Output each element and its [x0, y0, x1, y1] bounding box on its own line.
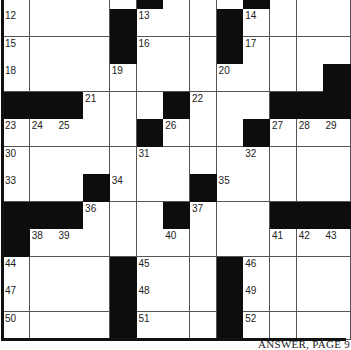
- grid-cell[interactable]: [56, 312, 83, 340]
- grid-cell[interactable]: [243, 92, 270, 120]
- grid-cell[interactable]: 36: [83, 202, 110, 230]
- grid-cell[interactable]: [297, 147, 324, 175]
- grid-cell[interactable]: [56, 9, 83, 37]
- grid-cell[interactable]: 31: [137, 147, 164, 175]
- grid-cell[interactable]: [190, 9, 217, 37]
- grid-cell[interactable]: [217, 92, 244, 120]
- grid-cell[interactable]: 33: [3, 174, 30, 202]
- grid-cell[interactable]: 32: [243, 147, 270, 175]
- grid-cell[interactable]: [217, 229, 244, 257]
- grid-cell[interactable]: [83, 257, 110, 285]
- grid-cell[interactable]: 52: [243, 312, 270, 340]
- grid-cell[interactable]: 13: [137, 9, 164, 37]
- grid-cell[interactable]: [243, 64, 270, 92]
- grid-cell[interactable]: 29: [323, 119, 350, 147]
- grid-cell[interactable]: [270, 257, 297, 285]
- grid-cell[interactable]: 42: [297, 229, 324, 257]
- grid-cell[interactable]: [297, 284, 324, 312]
- grid-cell[interactable]: [163, 257, 190, 285]
- grid-cell[interactable]: [243, 174, 270, 202]
- grid-cell[interactable]: [270, 312, 297, 340]
- grid-cell[interactable]: 19: [110, 64, 137, 92]
- grid-cell[interactable]: [297, 312, 324, 340]
- grid-cell[interactable]: [83, 147, 110, 175]
- grid-cell[interactable]: [190, 147, 217, 175]
- grid-cell[interactable]: 37: [190, 202, 217, 230]
- grid-cell[interactable]: 23: [3, 119, 30, 147]
- grid-cell[interactable]: [163, 37, 190, 65]
- grid-cell[interactable]: [270, 174, 297, 202]
- grid-cell[interactable]: 47: [3, 284, 30, 312]
- grid-cell[interactable]: [56, 147, 83, 175]
- grid-cell[interactable]: [56, 257, 83, 285]
- grid-cell[interactable]: 12: [3, 9, 30, 37]
- grid-cell[interactable]: [243, 229, 270, 257]
- grid-cell[interactable]: [270, 64, 297, 92]
- grid-cell[interactable]: [190, 64, 217, 92]
- grid-cell[interactable]: [297, 64, 324, 92]
- grid-cell[interactable]: [83, 37, 110, 65]
- grid-cell[interactable]: 21: [83, 92, 110, 120]
- grid-cell[interactable]: [110, 202, 137, 230]
- grid-cell[interactable]: [217, 147, 244, 175]
- grid-cell[interactable]: [110, 229, 137, 257]
- grid-cell[interactable]: 49: [243, 284, 270, 312]
- grid-cell[interactable]: [217, 119, 244, 147]
- grid-cell[interactable]: [83, 284, 110, 312]
- grid-cell[interactable]: [323, 174, 350, 202]
- grid-cell[interactable]: 35: [217, 174, 244, 202]
- grid-cell[interactable]: 14: [243, 9, 270, 37]
- grid-cell[interactable]: [270, 37, 297, 65]
- grid-cell[interactable]: [83, 119, 110, 147]
- grid-cell[interactable]: 26: [163, 119, 190, 147]
- grid-cell[interactable]: 38: [30, 229, 57, 257]
- grid-cell[interactable]: [30, 284, 57, 312]
- grid-cell[interactable]: [163, 147, 190, 175]
- grid-cell[interactable]: [83, 64, 110, 92]
- grid-cell[interactable]: 44: [3, 257, 30, 285]
- grid-cell[interactable]: [190, 257, 217, 285]
- grid-cell[interactable]: [137, 229, 164, 257]
- grid-cell[interactable]: [217, 202, 244, 230]
- grid-cell[interactable]: [163, 9, 190, 37]
- grid-cell[interactable]: [270, 9, 297, 37]
- grid-cell[interactable]: [83, 9, 110, 37]
- grid-cell[interactable]: [323, 9, 350, 37]
- grid-cell[interactable]: 25: [56, 119, 83, 147]
- grid-cell[interactable]: [323, 312, 350, 340]
- grid-cell[interactable]: 48: [137, 284, 164, 312]
- grid-cell[interactable]: [190, 229, 217, 257]
- grid-cell[interactable]: [56, 284, 83, 312]
- grid-cell[interactable]: [83, 312, 110, 340]
- grid-cell[interactable]: 30: [3, 147, 30, 175]
- grid-cell[interactable]: [323, 37, 350, 65]
- grid-cell[interactable]: [30, 257, 57, 285]
- grid-cell[interactable]: [190, 119, 217, 147]
- grid-cell[interactable]: 15: [3, 37, 30, 65]
- grid-cell[interactable]: [30, 64, 57, 92]
- grid-cell[interactable]: [83, 229, 110, 257]
- grid-cell[interactable]: 24: [30, 119, 57, 147]
- grid-cell[interactable]: [137, 64, 164, 92]
- grid-cell[interactable]: [56, 64, 83, 92]
- grid-cell[interactable]: [163, 312, 190, 340]
- grid-cell[interactable]: [30, 147, 57, 175]
- grid-cell[interactable]: [297, 9, 324, 37]
- grid-cell[interactable]: 34: [110, 174, 137, 202]
- grid-cell[interactable]: [137, 202, 164, 230]
- grid-cell[interactable]: [190, 284, 217, 312]
- grid-cell[interactable]: [190, 312, 217, 340]
- grid-cell[interactable]: 18: [3, 64, 30, 92]
- grid-cell[interactable]: [56, 174, 83, 202]
- grid-cell[interactable]: 51: [137, 312, 164, 340]
- grid-cell[interactable]: [323, 147, 350, 175]
- grid-cell[interactable]: [56, 37, 83, 65]
- grid-cell[interactable]: [270, 147, 297, 175]
- grid-cell[interactable]: [297, 37, 324, 65]
- grid-cell[interactable]: 17: [243, 37, 270, 65]
- grid-cell[interactable]: 45: [137, 257, 164, 285]
- grid-cell[interactable]: [30, 174, 57, 202]
- grid-cell[interactable]: 28: [297, 119, 324, 147]
- grid-cell[interactable]: [190, 37, 217, 65]
- grid-cell[interactable]: 27: [270, 119, 297, 147]
